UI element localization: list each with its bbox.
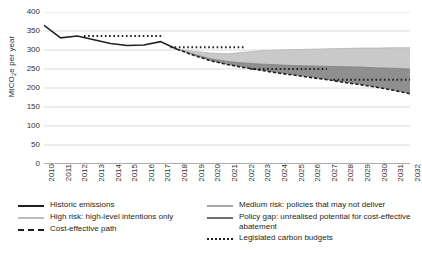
x-axis-tick-label: 2016 bbox=[147, 164, 156, 198]
chart-legend: Historic emissionsHigh risk: high-level … bbox=[0, 200, 414, 256]
x-axis-tick-label: 2023 bbox=[263, 164, 272, 198]
legend-swatch-solid bbox=[18, 217, 44, 219]
legend-item-label: Medium risk: policies that may not deliv… bbox=[239, 200, 385, 210]
legend-item-label: Historic emissions bbox=[50, 200, 114, 210]
legend-item-label: High risk: high-level intentions only bbox=[50, 212, 173, 222]
x-axis-tick-label: 2030 bbox=[380, 164, 389, 198]
x-axis-tick-label: 2018 bbox=[180, 164, 189, 198]
x-axis-tick-label: 2019 bbox=[197, 164, 206, 198]
legend-item-label: Policy gap: unrealised potential for cos… bbox=[239, 212, 417, 232]
y-axis-tick-label: 200 bbox=[12, 84, 40, 92]
y-axis-tick-label: 300 bbox=[12, 46, 40, 54]
legend-swatch-dashed bbox=[18, 229, 44, 231]
legend-swatch-solid bbox=[207, 217, 233, 219]
x-axis-tick-label: 2014 bbox=[114, 164, 123, 198]
series-historic-emissions bbox=[44, 25, 177, 49]
x-axis-tick-label: 2015 bbox=[130, 164, 139, 198]
y-axis-tick-label: 350 bbox=[12, 27, 40, 35]
legend-swatch-solid bbox=[18, 205, 44, 207]
x-axis-tick-label: 2024 bbox=[280, 164, 289, 198]
x-axis-tick-label: 2020 bbox=[213, 164, 222, 198]
x-axis-tick-label: 2021 bbox=[230, 164, 239, 198]
x-axis-tick-label: 2027 bbox=[330, 164, 339, 198]
x-axis-tick-label: 2013 bbox=[97, 164, 106, 198]
legend-item-label: Cost-effective path bbox=[50, 224, 117, 234]
x-axis-tick-label: 2011 bbox=[64, 164, 73, 198]
legend-item-label: Legislated carbon budgets bbox=[239, 233, 333, 243]
x-axis-tick-label: 2022 bbox=[247, 164, 256, 198]
y-axis-tick-label: 400 bbox=[12, 8, 40, 16]
plot-area bbox=[44, 12, 410, 164]
legend-swatch-solid bbox=[207, 205, 233, 207]
y-axis-tick-label: 0 bbox=[12, 160, 40, 168]
x-axis-tick-label: 2031 bbox=[396, 164, 405, 198]
y-axis-title-subscript: 2 bbox=[10, 73, 16, 76]
x-axis-tick-label: 2028 bbox=[346, 164, 355, 198]
y-axis-tick-label: 50 bbox=[12, 141, 40, 149]
legend-swatch-dotted bbox=[207, 238, 233, 240]
plot-svg bbox=[44, 12, 410, 164]
y-axis-tick-label: 100 bbox=[12, 122, 40, 130]
x-axis-tick-label: 2012 bbox=[80, 164, 89, 198]
x-axis-tick-label: 2026 bbox=[313, 164, 322, 198]
x-axis-tick-label: 2029 bbox=[363, 164, 372, 198]
y-axis-tick-label: 150 bbox=[12, 103, 40, 111]
x-axis-tick-label: 2025 bbox=[297, 164, 306, 198]
y-axis-tick-label: 250 bbox=[12, 65, 40, 73]
x-axis-tick-label: 2010 bbox=[47, 164, 56, 198]
x-axis-tick-label: 2032 bbox=[413, 164, 422, 198]
x-axis-tick-label: 2017 bbox=[163, 164, 172, 198]
x-axis: 2010201120122013201420152016201720182019… bbox=[44, 166, 410, 200]
y-axis: MtCO2e per year 400350300250200150100500 bbox=[0, 0, 40, 180]
